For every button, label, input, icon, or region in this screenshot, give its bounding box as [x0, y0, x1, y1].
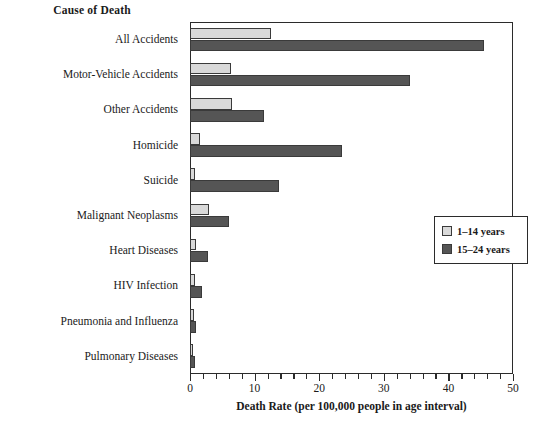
bar-light — [190, 168, 195, 180]
x-tick-minor — [229, 374, 230, 379]
category-label: Malignant Neoplasms — [0, 198, 184, 233]
x-tick-label: 10 — [249, 382, 261, 394]
bar-dark — [190, 145, 342, 157]
category-label: Homicide — [0, 128, 184, 163]
bar-dark — [190, 40, 484, 52]
bar-dark — [190, 286, 202, 298]
legend-label: 15–24 years — [457, 244, 510, 255]
x-tick-minor — [345, 374, 346, 379]
x-tick-minor — [306, 374, 307, 379]
category-label: Pulmonary Diseases — [0, 339, 184, 374]
bar-light — [190, 239, 196, 251]
bar-group — [190, 22, 513, 57]
x-tick-minor — [487, 374, 488, 379]
x-tick-minor — [397, 374, 398, 379]
bar-light — [190, 63, 231, 75]
bar-light — [190, 28, 271, 40]
x-tick-minor — [358, 374, 359, 379]
legend-item-1-14-years: 1–14 years — [442, 222, 527, 240]
legend: 1–14 years 15–24 years — [434, 216, 528, 264]
category-label: All Accidents — [0, 22, 184, 57]
bar-light — [190, 98, 232, 110]
category-label: Heart Diseases — [0, 233, 184, 268]
bar-light — [190, 204, 209, 216]
x-tick-minor — [500, 374, 501, 379]
x-tick-minor — [242, 374, 243, 379]
category-axis-labels: All AccidentsMotor-Vehicle AccidentsOthe… — [0, 22, 184, 374]
bar-group — [190, 163, 513, 198]
x-tick-minor — [461, 374, 462, 379]
x-tick-minor — [423, 374, 424, 379]
bar-dark — [190, 75, 410, 87]
bar-group — [190, 92, 513, 127]
legend-swatch-dark-icon — [442, 244, 452, 254]
bar-group — [190, 57, 513, 92]
bar-dark — [190, 251, 208, 263]
bars-container — [190, 22, 513, 374]
category-label: Suicide — [0, 163, 184, 198]
x-tick-major — [513, 374, 514, 381]
bar-group — [190, 304, 513, 339]
x-tick-minor — [216, 374, 217, 379]
x-tick-minor — [371, 374, 372, 379]
x-tick-label: 40 — [443, 382, 455, 394]
x-tick-minor — [435, 374, 436, 379]
x-tick-minor — [280, 374, 281, 379]
x-tick-minor — [293, 374, 294, 379]
bar-dark — [190, 321, 196, 333]
x-tick-minor — [332, 374, 333, 379]
x-tick-minor — [268, 374, 269, 379]
x-tick-minor — [203, 374, 204, 379]
x-tick-minor — [410, 374, 411, 379]
x-tick-major — [448, 374, 449, 381]
bar-group — [190, 339, 513, 374]
bar-dark — [190, 180, 279, 192]
bar-dark — [190, 110, 264, 122]
x-tick-major — [384, 374, 385, 381]
x-tick-label: 30 — [378, 382, 390, 394]
bar-light — [190, 344, 193, 356]
category-label: Motor-Vehicle Accidents — [0, 57, 184, 92]
x-tick-label: 0 — [187, 382, 193, 394]
legend-label: 1–14 years — [457, 226, 505, 237]
bar-light — [190, 133, 200, 145]
legend-swatch-light-icon — [442, 226, 452, 236]
category-label: HIV Infection — [0, 268, 184, 303]
x-tick-major — [255, 374, 256, 381]
bar-dark — [190, 356, 195, 368]
category-axis-title: Cause of Death — [0, 4, 184, 16]
bar-light — [190, 309, 194, 321]
legend-item-15-24-years: 15–24 years — [442, 240, 527, 258]
x-axis-ticks — [190, 374, 513, 382]
x-tick-major — [319, 374, 320, 381]
category-label: Other Accidents — [0, 92, 184, 127]
bar-group — [190, 128, 513, 163]
x-tick-minor — [474, 374, 475, 379]
x-tick-label: 50 — [507, 382, 519, 394]
bar-dark — [190, 216, 229, 228]
category-label: Pneumonia and Influenza — [0, 304, 184, 339]
bar-group — [190, 268, 513, 303]
x-tick-label: 20 — [313, 382, 325, 394]
x-axis-tick-labels: 01020304050 — [190, 382, 513, 398]
bar-light — [190, 274, 195, 286]
bar-chart: Cause of Death All AccidentsMotor-Vehicl… — [0, 0, 548, 444]
x-axis-title: Death Rate (per 100,000 people in age in… — [190, 400, 513, 412]
x-tick-major — [190, 374, 191, 381]
